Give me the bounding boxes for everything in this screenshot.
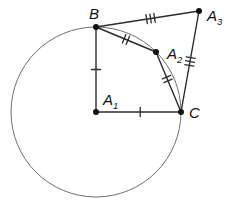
label-A2: A2 <box>166 45 183 65</box>
label-A1: A1 <box>102 91 118 111</box>
tick-mark-B-A3-2 <box>150 14 151 23</box>
point-C <box>178 109 184 115</box>
point-A1 <box>93 109 99 115</box>
segment-B-A3 <box>96 11 199 27</box>
label-A3: A3 <box>206 7 223 27</box>
label-C: C <box>189 104 200 121</box>
geometry-figure: BA1A2A3C <box>0 0 228 211</box>
label-B: B <box>89 5 99 22</box>
point-B <box>93 24 99 30</box>
segment-B-A2 <box>96 27 156 52</box>
tick-mark-A3-C-3 <box>185 65 194 67</box>
tick-mark-B-A3-1 <box>146 15 147 24</box>
point-A2 <box>153 49 159 55</box>
point-A3 <box>196 8 202 14</box>
tick-mark-B-A3-3 <box>154 13 155 22</box>
tick-mark-A3-C-2 <box>186 61 195 63</box>
tick-mark-A3-C-1 <box>186 57 195 59</box>
geometry-diagram: BA1A2A3C <box>0 0 228 211</box>
